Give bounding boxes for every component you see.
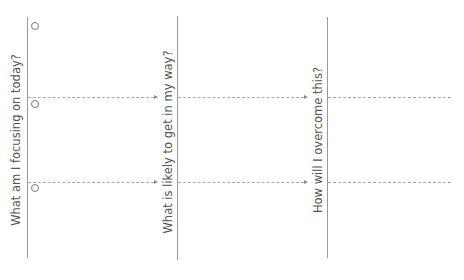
column-1-line (27, 17, 28, 258)
arrow-right-icon (304, 180, 308, 184)
row-2-connector-c (328, 182, 451, 183)
arrow-right-icon (154, 95, 158, 99)
checkbox-circle-1[interactable] (31, 22, 39, 30)
column-3-line (327, 17, 328, 258)
row-1-connector-c (328, 97, 451, 98)
row-2-connector-b (178, 182, 304, 183)
column-2-line (177, 16, 178, 260)
checkbox-circle-2[interactable] (31, 100, 39, 108)
row-2-connector-a (28, 182, 154, 183)
row-1-connector-a (28, 97, 154, 98)
checkbox-circle-3[interactable] (31, 184, 39, 192)
column-2-label: What is likely to get in my way? (161, 51, 175, 234)
column-1-label: What am I focusing on today? (9, 54, 23, 226)
row-1-connector-b (178, 97, 304, 98)
arrow-right-icon (304, 95, 308, 99)
column-3-label: How will I overcome this? (311, 67, 325, 213)
arrow-right-icon (154, 180, 158, 184)
